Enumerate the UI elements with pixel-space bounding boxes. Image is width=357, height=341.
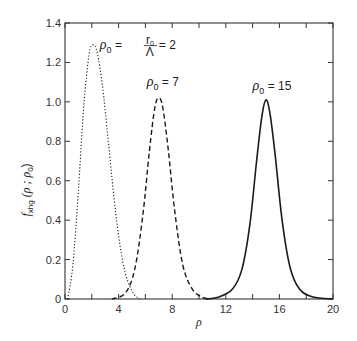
y-tick-label: 0 [55, 293, 61, 305]
axis-ticks: 04812162000.20.40.60.81.01.21.4 [46, 17, 339, 315]
annotation-rho0-15: ρ0 = 15 [252, 78, 292, 96]
fraction-r0-over-lambda: r0Λ = 2 [144, 33, 176, 59]
y-tick-label: 0.4 [46, 214, 61, 226]
curve-rho0-7 [112, 98, 210, 299]
plot-border [65, 23, 333, 299]
curves [68, 45, 333, 299]
svg-text:Λ: Λ [146, 45, 154, 59]
annotation-rho0-7: ρ0 = 7 [146, 74, 179, 92]
x-tick-label: 8 [169, 303, 175, 315]
x-tick-label: 20 [327, 303, 339, 315]
x-axis-label: ρ [195, 315, 202, 329]
annotation-rho0-2: ρ0 = [99, 37, 122, 55]
y-tick-label: 1.4 [46, 17, 61, 29]
y-tick-label: 0.8 [46, 135, 61, 147]
y-tick-label: 0.2 [46, 254, 61, 266]
x-tick-label: 0 [62, 303, 68, 315]
y-tick-label: 0.6 [46, 175, 61, 187]
y-tick-label: 1.2 [46, 56, 61, 68]
curve-rho0-2 [68, 45, 140, 299]
x-tick-label: 4 [116, 303, 122, 315]
y-label-close: ) [19, 163, 33, 167]
svg-text:fxhg(ρ ; ρ0): fxhg(ρ ; ρ0) [19, 163, 35, 216]
x-tick-label: 16 [273, 303, 285, 315]
y-label-sub: xhg [26, 200, 35, 213]
curve-rho0-15 [206, 100, 333, 299]
y-label-args: (ρ ; ρ [19, 172, 33, 198]
y-axis-label: fxhg(ρ ; ρ0) [19, 163, 35, 216]
curve-annotations: ρ0 = r0Λ = 2ρ0 = 7ρ0 = 15 [99, 33, 292, 96]
density-chart: 04812162000.20.40.60.81.01.21.4 ρ0 = r0Λ… [0, 0, 357, 341]
y-tick-label: 1.0 [46, 96, 61, 108]
svg-text:= 2: = 2 [159, 38, 176, 52]
x-tick-label: 12 [220, 303, 232, 315]
plot-frame [65, 23, 333, 299]
